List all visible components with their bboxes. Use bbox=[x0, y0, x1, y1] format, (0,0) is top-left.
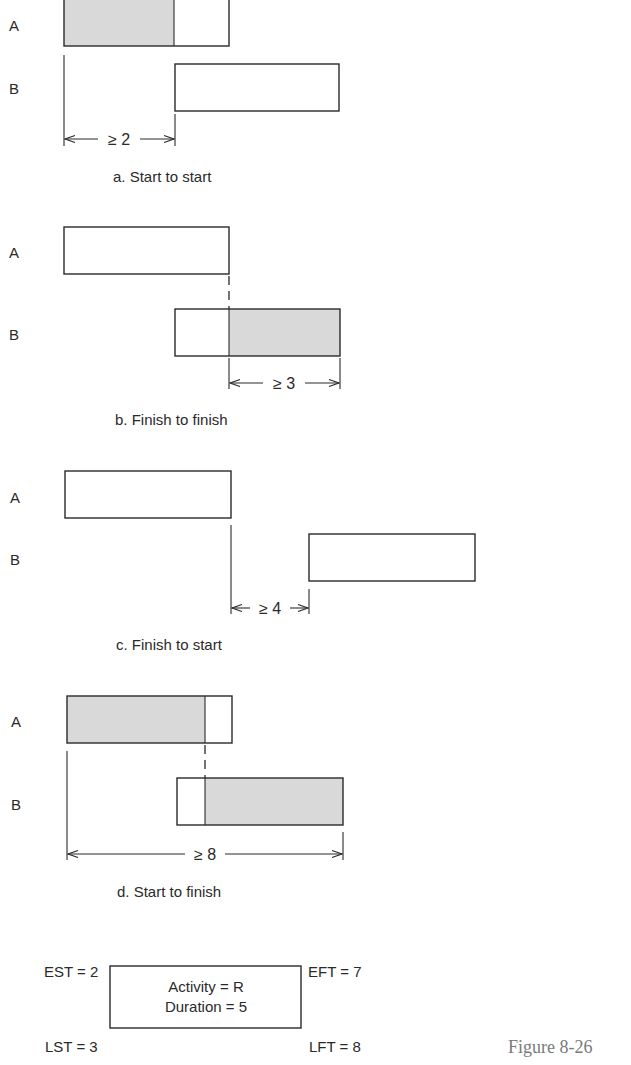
activity-b-bar bbox=[177, 778, 343, 825]
row-label-a: A bbox=[9, 244, 19, 261]
activity-b-bar bbox=[175, 309, 340, 356]
panel-finish-to-finish: A B ≥ 3 b. Finish to finish bbox=[9, 227, 340, 428]
shaded-portion bbox=[64, 0, 174, 46]
panel-finish-to-start: A B ≥ 4 c. Finish to start bbox=[10, 471, 475, 653]
activity-node-box bbox=[110, 966, 301, 1028]
row-label-b: B bbox=[11, 796, 21, 813]
figure-label: Figure 8-26 bbox=[508, 1037, 593, 1057]
row-label-a: A bbox=[11, 713, 21, 730]
activity-a-bar bbox=[65, 471, 231, 518]
row-label-b: B bbox=[9, 80, 19, 97]
shaded-portion bbox=[229, 309, 340, 356]
activity-b-bar bbox=[175, 64, 339, 111]
lag-label: ≥ 2 bbox=[108, 131, 130, 148]
lft-label: LFT = 8 bbox=[309, 1038, 361, 1055]
activity-b-bar bbox=[309, 534, 475, 581]
eft-label: EFT = 7 bbox=[308, 963, 362, 980]
row-label-a: A bbox=[10, 489, 20, 506]
activity-a-bar bbox=[64, 0, 229, 46]
lst-label: LST = 3 bbox=[45, 1038, 98, 1055]
panel-caption: c. Finish to start bbox=[116, 636, 223, 653]
row-label-b: B bbox=[9, 326, 19, 343]
panel-caption: a. Start to start bbox=[113, 168, 212, 185]
row-label-b: B bbox=[10, 551, 20, 568]
est-label: EST = 2 bbox=[44, 963, 98, 980]
panel-start-to-start: A B ≥ 2 a. Start to start bbox=[9, 0, 339, 185]
lag-label: ≥ 8 bbox=[194, 846, 216, 863]
shaded-portion bbox=[67, 696, 205, 743]
lag-label: ≥ 4 bbox=[259, 600, 281, 617]
panel-start-to-finish: A B ≥ 8 d. Start to finish bbox=[11, 696, 343, 900]
panel-caption: b. Finish to finish bbox=[115, 411, 228, 428]
lag-label: ≥ 3 bbox=[273, 375, 295, 392]
shaded-portion bbox=[205, 778, 343, 825]
activity-name: Activity = R bbox=[168, 978, 244, 995]
activity-duration: Duration = 5 bbox=[165, 998, 247, 1015]
activity-a-bar bbox=[64, 227, 229, 274]
activity-node-legend: EST = 2 EFT = 7 Activity = R Duration = … bbox=[44, 963, 362, 1055]
row-label-a: A bbox=[9, 17, 19, 34]
activity-a-bar bbox=[67, 696, 232, 743]
panel-caption: d. Start to finish bbox=[117, 883, 221, 900]
precedence-relationships-diagram: A B ≥ 2 a. Start to start A B ≥ 3 b. Fin… bbox=[0, 0, 631, 1065]
